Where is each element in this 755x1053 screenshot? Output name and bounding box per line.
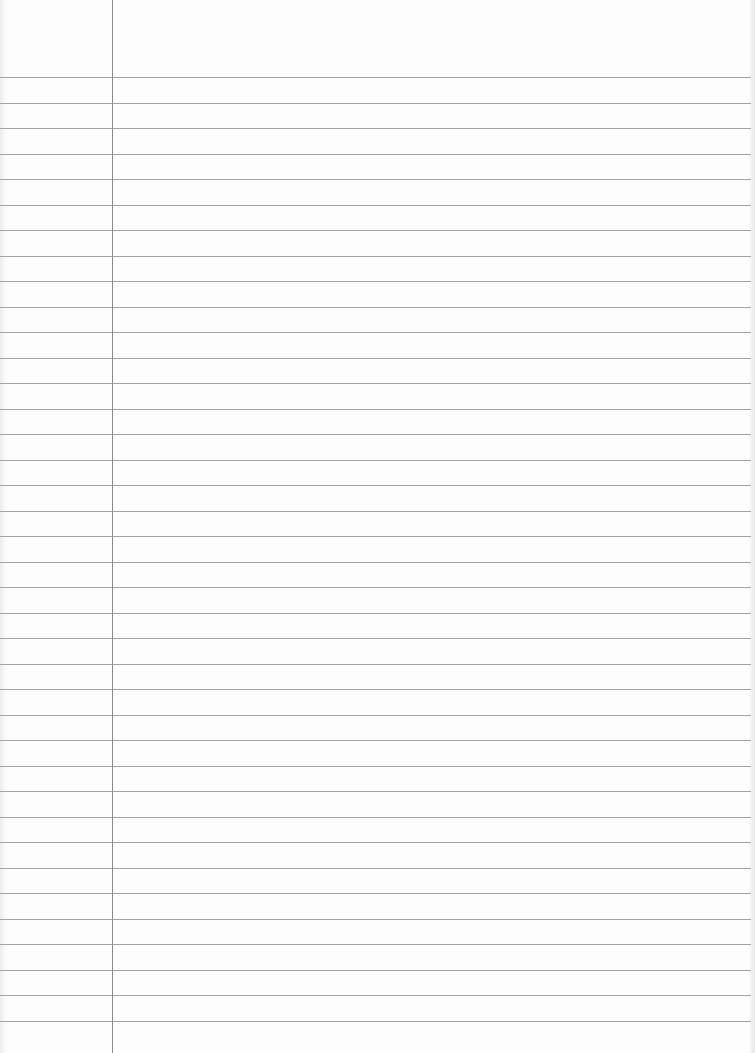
page-right-edge-shadow (749, 0, 755, 1053)
notebook-page (0, 0, 755, 1053)
margin-line (112, 0, 113, 1053)
page-left-edge-shadow (0, 0, 6, 1053)
